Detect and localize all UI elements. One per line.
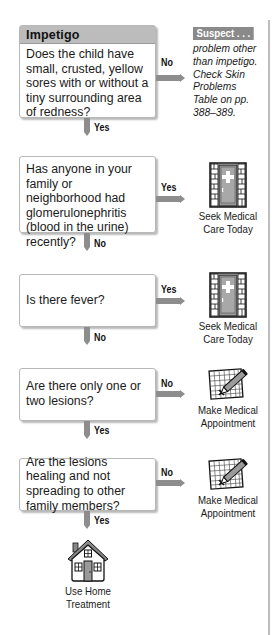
outcome-caption-line2: Care Today	[192, 333, 264, 346]
question-box-2: Has anyone in your family or neighborhoo…	[19, 156, 156, 233]
branch-label-4-down: Yes	[94, 424, 109, 436]
outcome-make-appointment-2: Make Medical Appointment	[188, 454, 268, 519]
question-box-3: Is there fever?	[19, 274, 156, 327]
question-text-3: Is there fever?	[20, 290, 110, 312]
calendar-pencil-icon	[188, 364, 268, 402]
outcome-caption-line2: Care Today	[192, 223, 264, 236]
question-text-4: Are there only one or two lesions?	[20, 376, 155, 412]
branch-label-2-side: Yes	[161, 181, 176, 193]
calendar-pencil-icon	[188, 454, 268, 492]
outcome-caption-line2: Treatment	[52, 598, 124, 611]
outcome-caption-line2: Appointment	[192, 417, 264, 430]
outcome-make-appointment-1: Make Medical Appointment	[188, 364, 268, 429]
outcome-home-treatment: Use Home Treatment	[48, 537, 128, 610]
outcome-caption-line1: Seek Medical	[192, 320, 264, 333]
branch-label-4-side: No	[161, 377, 173, 389]
branch-label-2-down: No	[94, 237, 106, 249]
arrow-down-1	[84, 118, 90, 132]
outcome-caption-line1: Make Medical	[192, 404, 264, 417]
arrow-down-5	[84, 511, 90, 525]
outcome-seek-care-1: Seek Medical Care Today	[188, 162, 268, 235]
home-icon	[48, 537, 128, 583]
page-divider-rule	[268, 20, 270, 635]
arrow-right-5	[156, 480, 180, 486]
branch-label-1-down: Yes	[94, 121, 109, 133]
branch-label-3-down: No	[94, 331, 106, 343]
outcome-caption-line1: Seek Medical	[192, 210, 264, 223]
outcome-caption-line1: Make Medical	[192, 494, 264, 507]
branch-label-3-side: Yes	[161, 283, 176, 295]
arrow-down-3	[84, 327, 90, 341]
arrow-right-4	[156, 391, 180, 397]
arrow-down-4	[84, 421, 90, 435]
branch-label-5-down: Yes	[94, 514, 109, 526]
flowchart-title: Impetigo	[20, 26, 155, 44]
question-box-4: Are there only one or two lesions?	[19, 368, 156, 421]
question-text-1: Does the child have small, crusted, yell…	[20, 44, 155, 124]
outcome-caption-line2: Appointment	[192, 507, 264, 520]
suspect-tag: Suspect . . .	[193, 27, 254, 40]
question-box-5: Are the lesions healing and not spreadin…	[19, 458, 156, 511]
hospital-door-icon	[188, 162, 268, 208]
outcome-seek-care-2: Seek Medical Care Today	[188, 272, 268, 345]
branch-label-1-side: No	[161, 56, 173, 68]
arrow-down-2	[84, 233, 90, 247]
arrow-right-1	[156, 75, 180, 81]
question-text-5: Are the lesions healing and not spreadin…	[20, 452, 155, 517]
branch-label-5-side: No	[161, 466, 173, 478]
suspect-text: problem other than impetigo. Check Skin …	[193, 42, 258, 119]
arrow-right-2	[156, 196, 180, 202]
outcome-caption-line1: Use Home	[52, 585, 124, 598]
hospital-door-icon	[188, 272, 268, 318]
question-box-1: Impetigo Does the child have small, crus…	[19, 25, 156, 118]
arrow-right-3	[156, 298, 180, 304]
